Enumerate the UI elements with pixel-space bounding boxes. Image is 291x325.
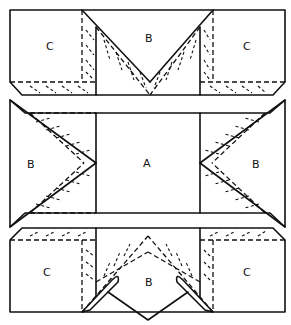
label-c-bottom-left: C (43, 266, 51, 279)
label-b-middle-left: B (27, 158, 35, 171)
label-a-center: A (143, 157, 151, 170)
label-b-middle-right: B (252, 158, 260, 171)
top-row: C B C (10, 10, 285, 95)
label-c-top-right: C (243, 40, 251, 53)
quilt-diagram: C B C B A B (0, 0, 291, 325)
label-c-top-left: C (46, 40, 54, 53)
label-c-bottom-right: C (243, 266, 251, 279)
label-b-top: B (145, 32, 153, 45)
middle-row: B A B (10, 100, 285, 227)
label-b-bottom: B (145, 276, 153, 289)
bottom-row: C B C (10, 228, 285, 320)
pointer-lines (108, 292, 188, 320)
